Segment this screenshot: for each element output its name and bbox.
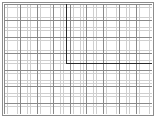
- rectangle-annotation: [66, 4, 152, 64]
- figure-canvas: [0, 0, 156, 118]
- plot-area: [4, 4, 152, 114]
